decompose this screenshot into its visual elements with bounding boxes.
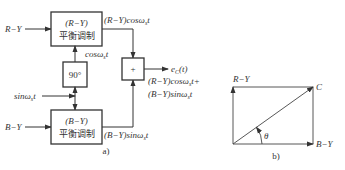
b-minus-y-axis-label: B−Y: [316, 139, 334, 149]
r-minus-y-axis-label: R−Y: [232, 74, 251, 84]
bottom-modulator-label: 平衡调制: [59, 128, 95, 139]
resultant-c-label: C: [316, 82, 323, 92]
result-line-2: (B−Y)sinωst: [148, 89, 193, 100]
block-diagram-a: R−Y (R−Y) 平衡调制 (R−Y)cosωst cosωst 90° si…: [4, 12, 200, 156]
caption-a: a): [103, 146, 110, 156]
result-line-1: (R−Y)cosωst+: [148, 76, 200, 87]
theta-label: θ: [264, 131, 269, 141]
theta-angle-arc: [257, 127, 263, 144]
vector-diagram-b: R−Y B−Y C θ b): [232, 74, 334, 161]
bottom-modulator-signal: (B−Y): [65, 116, 88, 126]
adder-label: +: [130, 64, 135, 74]
result-signal-name: eC(t): [171, 64, 188, 75]
caption-b: b): [272, 151, 280, 161]
phase-shifter-label: 90°: [69, 70, 82, 80]
cos-signal-label: cosωst: [85, 49, 109, 60]
resultant-c-vector: [233, 87, 313, 144]
bottom-output-line: [102, 80, 133, 127]
subcarrier-input-label: sinωst: [14, 91, 36, 102]
top-output-label: (R−Y)cosωst: [104, 15, 150, 26]
input-b-minus-y-label: B−Y: [5, 122, 23, 132]
chroma-modulation-diagram: R−Y (R−Y) 平衡调制 (R−Y)cosωst cosωst 90° si…: [0, 0, 345, 170]
input-r-minus-y-label: R−Y: [4, 24, 23, 34]
top-modulator-label: 平衡调制: [59, 30, 95, 41]
bottom-output-label: (B−Y)sinωst: [104, 130, 149, 141]
top-modulator-signal: (R−Y): [65, 18, 88, 28]
